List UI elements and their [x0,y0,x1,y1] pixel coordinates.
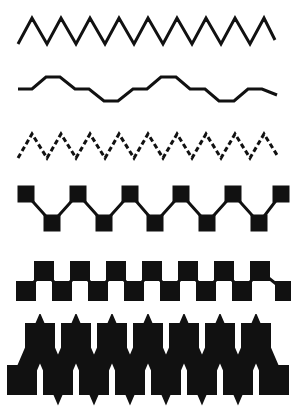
waveform-row-3 [0,114,291,170]
square-marker [196,281,216,301]
square-marker [18,186,35,203]
square-marker [122,186,139,203]
square-marker [142,261,162,281]
square-marker [79,365,109,395]
waveform-row-5 [0,248,291,314]
square-marker [34,261,54,281]
square-marker [88,281,108,301]
waveform-svg-5 [0,248,291,314]
square-marker [151,365,181,395]
square-marker [124,281,144,301]
figure-canvas [0,0,291,409]
square-marker [250,261,270,281]
waveform-svg-6 [0,314,291,409]
square-marker [70,261,90,281]
square-marker [61,323,91,353]
waveform-row-6 [0,314,291,409]
square-marker [251,215,268,232]
square-marker [199,215,216,232]
zigzag-polyline-dashed [18,134,277,158]
square-marker [70,186,87,203]
square-marker [275,281,291,301]
square-marker [16,281,36,301]
square-marker [178,261,198,281]
waveform-svg-4 [0,170,291,248]
square-marker [147,215,164,232]
square-marker [214,261,234,281]
waveform-svg-2 [0,62,291,114]
square-marker [44,215,61,232]
square-marker [25,323,55,353]
square-marker-group-5 [16,261,291,301]
square-marker [169,323,199,353]
square-marker [43,365,73,395]
waveform-row-1 [0,0,291,62]
square-marker [7,365,37,395]
square-marker [187,365,217,395]
square-marker [173,186,190,203]
zigzag-polyline-stepped [18,77,277,101]
square-marker [273,186,290,203]
square-marker [52,281,72,301]
waveform-svg-3 [0,114,291,170]
square-marker [232,281,252,301]
square-marker [241,323,271,353]
waveform-row-4 [0,170,291,248]
square-marker [160,281,180,301]
square-marker-group-4 [18,186,290,232]
waveform-row-2 [0,62,291,114]
square-marker [225,186,242,203]
square-marker [96,215,113,232]
zigzag-polyline-thin-triangle [18,18,275,44]
square-marker [106,261,126,281]
square-marker [97,323,127,353]
square-marker [133,323,163,353]
square-marker [223,365,253,395]
square-marker [259,365,289,395]
square-marker [205,323,235,353]
waveform-svg-1 [0,0,291,62]
square-marker [115,365,145,395]
